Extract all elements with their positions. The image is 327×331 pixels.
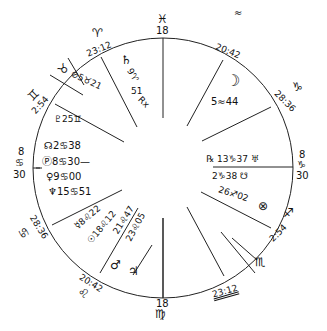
cusp-line-8 bbox=[202, 107, 271, 141]
capricorn-glyph: ♑ bbox=[292, 82, 303, 92]
saturn-minutes: 51 bbox=[131, 86, 142, 96]
cusp-line-4b bbox=[221, 232, 255, 273]
north-node-position: ☊2♋38 bbox=[44, 141, 81, 151]
ic-sign-glyph: ♍ bbox=[155, 309, 166, 319]
moon-glyph: ☽ bbox=[226, 76, 240, 86]
cusp-line-4 bbox=[187, 207, 224, 276]
part-of-fortune-p-position: Ⓟ8♋30— bbox=[42, 157, 90, 167]
asc-sign-glyph: ♋ bbox=[15, 158, 24, 168]
scorpio-glyph: ♏ bbox=[255, 257, 266, 267]
aquarius-glyph: ≈ bbox=[234, 8, 242, 18]
cusp-line-5 bbox=[232, 238, 257, 260]
saturn-glyph: ♄ bbox=[121, 55, 132, 65]
pluto-position: ♇25♊ bbox=[54, 114, 82, 124]
sag-glyph: ♐ bbox=[283, 208, 294, 218]
aries-glyph: ♈ bbox=[92, 28, 103, 38]
dsc-minutes: 30 bbox=[296, 171, 309, 181]
dsc-sign-glyph: ♑ bbox=[297, 160, 306, 170]
mc-degree: 18 bbox=[156, 26, 169, 36]
cusp-line-9 bbox=[187, 60, 223, 126]
mc-sign-glyph: ♓ bbox=[157, 14, 168, 24]
neptune-position: ♆15♋51 bbox=[48, 187, 91, 197]
asc-minutes: 30 bbox=[13, 170, 26, 180]
part-of-fortune-glyph: ⊗ bbox=[258, 201, 268, 211]
south-node-position: 2♑38 ☋ bbox=[212, 171, 248, 181]
uranus-position: ℞ 13♑37 ♅ bbox=[206, 154, 259, 164]
moon-position: 5≈44 bbox=[211, 97, 238, 107]
jupiter-glyph: ♃ bbox=[128, 266, 139, 276]
asc-degree: 8 bbox=[18, 147, 24, 157]
mars-glyph: ♂ bbox=[110, 260, 121, 270]
venus-position: ♀9♋00 bbox=[46, 172, 81, 182]
